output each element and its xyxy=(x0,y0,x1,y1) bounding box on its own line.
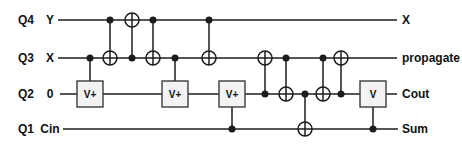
circuit-svg: V+V+V+VQ4YXQ3XpropagateQ20CoutQ1CinSum xyxy=(0,0,462,147)
qubit-label-Q2: Q2 xyxy=(18,87,34,101)
output-label-Q4: X xyxy=(402,13,410,27)
output-label-Q3: propagate xyxy=(402,51,460,65)
gate-box-label: V+ xyxy=(169,89,182,100)
output-label-Q2: Cout xyxy=(402,87,429,101)
control-dot-icon xyxy=(129,55,136,62)
control-dot-icon xyxy=(150,17,157,24)
qubit-label-Q1: Q1 xyxy=(18,122,34,136)
output-label-Q1: Sum xyxy=(402,122,428,136)
input-label-Q1: Cin xyxy=(40,122,59,136)
control-dot-icon xyxy=(229,126,236,133)
control-dot-icon xyxy=(87,55,94,62)
qubit-label-Q4: Q4 xyxy=(18,13,34,27)
input-label-Q3: X xyxy=(46,51,54,65)
control-dot-icon xyxy=(320,55,327,62)
input-label-Q2: 0 xyxy=(47,87,54,101)
control-dot-icon xyxy=(262,91,269,98)
gate-box-label: V xyxy=(370,89,377,100)
control-dot-icon xyxy=(206,17,213,24)
quantum-circuit-diagram: V+V+V+VQ4YXQ3XpropagateQ20CoutQ1CinSum xyxy=(0,0,462,147)
control-dot-icon xyxy=(370,126,377,133)
control-dot-icon xyxy=(107,17,114,24)
control-dot-icon xyxy=(283,55,290,62)
control-dot-icon xyxy=(172,55,179,62)
gate-box-label: V+ xyxy=(84,89,97,100)
control-dot-icon xyxy=(338,91,345,98)
control-dot-icon xyxy=(302,91,309,98)
input-label-Q4: Y xyxy=(46,13,54,27)
gate-box-label: V+ xyxy=(226,89,239,100)
qubit-label-Q3: Q3 xyxy=(18,51,34,65)
